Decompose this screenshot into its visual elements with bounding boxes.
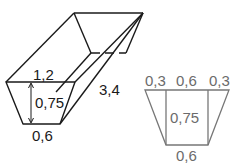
cross-section-top-right-label: 0,3 <box>209 73 230 88</box>
cross-section-top-left-label: 0,3 <box>145 73 166 88</box>
cross-section-height-label: 0,75 <box>170 110 199 125</box>
prism-length-label: 3,4 <box>99 82 120 97</box>
prism-bottom-width-label: 0,6 <box>32 128 53 143</box>
prism-3d <box>6 13 143 124</box>
prism-top-width-label: 1,2 <box>33 67 54 82</box>
prism-top-right-edge <box>75 13 143 82</box>
prism-bottom-right-edge <box>60 13 143 124</box>
prism-back-left-edge <box>74 13 91 53</box>
cross-section-bottom-label: 0,6 <box>176 148 197 163</box>
cross-section-top-middle-label: 0,6 <box>176 73 197 88</box>
prism-height-label: 0,75 <box>35 95 64 110</box>
